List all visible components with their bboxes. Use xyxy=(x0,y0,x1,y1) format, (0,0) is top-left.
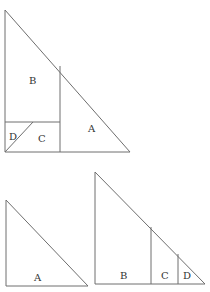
label-d: D xyxy=(9,131,17,142)
label-b: B xyxy=(29,75,36,86)
medium-triangle-bcd: B C D xyxy=(95,172,205,284)
label-b: B xyxy=(120,270,127,281)
medium-triangle-outline xyxy=(95,172,205,284)
label-a: A xyxy=(87,123,96,134)
large-triangle-outline xyxy=(5,10,130,152)
large-triangle: B A D C xyxy=(5,10,130,152)
label-d: D xyxy=(183,270,191,281)
dissection-diagram: B A D C A B C D xyxy=(0,0,210,292)
label-c: C xyxy=(38,133,46,144)
label-a: A xyxy=(33,272,42,283)
small-triangle-outline xyxy=(6,200,88,286)
small-triangle-a: A xyxy=(6,200,88,286)
label-c: C xyxy=(161,270,169,281)
